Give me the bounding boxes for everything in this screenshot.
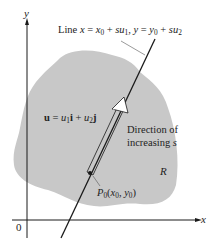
- point-p0-label: P0(x0, y0): [97, 188, 136, 199]
- label-leader-line: [121, 41, 145, 55]
- direction-label-line2: increasing s: [127, 136, 178, 149]
- point-p0: [88, 171, 92, 175]
- origin-label: 0: [16, 222, 22, 233]
- x-axis-label: x: [201, 214, 206, 225]
- y-axis-arrow-icon: [25, 18, 29, 25]
- line-equation-label: Line x = x0 + su1, y = y0 + su2: [58, 25, 182, 36]
- region-label: R: [160, 166, 167, 177]
- vector-u-label: u = u1i + u2j: [44, 113, 96, 124]
- direction-label-line1: Direction of: [127, 123, 178, 136]
- y-axis-label: y: [24, 8, 29, 19]
- direction-label: Direction of increasing s: [127, 123, 178, 149]
